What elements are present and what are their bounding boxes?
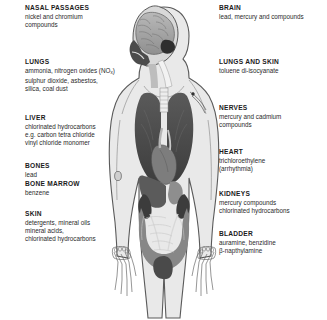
label-line: β-napthylamine (219, 247, 276, 255)
label-lungs-and-skin: LUNGS AND SKIN toluene di-isocyanate (219, 58, 279, 75)
label-line: sulphur dioxide, asbestos, (25, 77, 115, 85)
label-heart: HEART trichloroethylene (arrhythmia) (219, 148, 265, 173)
label-heading: BRAIN (219, 4, 304, 13)
label-line: lead (25, 171, 50, 179)
label-line: detergents, mineral oils (25, 219, 96, 227)
label-line: trichloroethylene (219, 157, 265, 165)
label-bones: BONES lead (25, 162, 50, 179)
label-brain: BRAIN lead, mercury and compounds (219, 4, 304, 21)
label-heading: LUNGS (25, 58, 115, 67)
label-line: chlorinated hydrocarbons (25, 123, 96, 131)
label-kidneys: KIDNEYS mercury compounds chlorinated hy… (219, 190, 290, 215)
label-line: (arrhythmia) (219, 165, 265, 173)
label-bladder: BLADDER auramine, benzidine β-napthylami… (219, 230, 276, 255)
label-line: mineral acids, (25, 227, 96, 235)
label-line: compounds (25, 21, 89, 29)
label-line: silica, coal dust (25, 85, 115, 93)
label-line-text: ammonia, nitrogen oxides (NO (25, 67, 110, 74)
label-nerves: NERVES mercury and cadmium compounds (219, 104, 281, 129)
label-line: ammonia, nitrogen oxides (NOx) (25, 67, 115, 77)
label-line: lead, mercury and compounds (219, 13, 304, 21)
label-heading: HEART (219, 148, 265, 157)
label-nasal-passages: NASAL PASSAGES nickel and chromium compo… (25, 4, 89, 29)
label-line: toluene di-isocyanate (219, 67, 279, 75)
label-line: vinyl chloride monomer (25, 139, 96, 147)
human-body-anatomical-figure (108, 0, 220, 320)
label-heading: BONE MARROW (25, 180, 80, 189)
label-heading: SKIN (25, 210, 96, 219)
label-heading: BLADDER (219, 230, 276, 239)
label-line: benzene (25, 189, 80, 197)
label-line: chlorinated hydrocarbons (25, 235, 96, 243)
label-heading: NASAL PASSAGES (25, 4, 89, 13)
label-line: mercury and cadmium (219, 113, 281, 121)
label-heading: LIVER (25, 114, 96, 123)
label-lungs: LUNGS ammonia, nitrogen oxides (NOx) sul… (25, 58, 115, 93)
label-line: mercury compounds (219, 199, 290, 207)
bladder-organ (153, 256, 172, 279)
label-heading: BONES (25, 162, 50, 171)
label-skin: SKIN detergents, mineral oils mineral ac… (25, 210, 96, 243)
bone-marrow-marker (115, 171, 122, 180)
label-heading: NERVES (219, 104, 281, 113)
exposure-target-organ-diagram: NASAL PASSAGES nickel and chromium compo… (0, 0, 327, 320)
label-line: chlorinated hydrocarbons (219, 207, 290, 215)
label-line: auramine, benzidine (219, 239, 276, 247)
label-bone-marrow: BONE MARROW benzene (25, 180, 80, 197)
label-line: compounds (219, 121, 281, 129)
label-line: nickel and chromium (25, 13, 89, 21)
label-heading: LUNGS AND SKIN (219, 58, 279, 67)
label-liver: LIVER chlorinated hydrocarbons e.g. carb… (25, 114, 96, 147)
label-heading: KIDNEYS (219, 190, 290, 199)
subscript-x: x (110, 70, 112, 75)
label-line: e.g. carbon tetra chloride (25, 131, 96, 139)
